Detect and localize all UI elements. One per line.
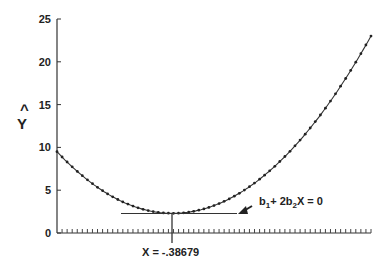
svg-text:0: 0	[45, 227, 51, 239]
curve-markers	[56, 35, 373, 215]
fitted-curve	[57, 36, 371, 213]
svg-text:20: 20	[39, 56, 51, 68]
minimum-x-label: X = -.38679	[142, 246, 199, 258]
svg-text:15: 15	[39, 99, 51, 111]
derivative-annotation: b1+ 2b2X = 0	[259, 195, 323, 210]
svg-text:5: 5	[45, 184, 51, 196]
quadratic-fit-chart: 0510152025 ^ Y X = -.38679 b1+ 2b2X = 0	[0, 0, 389, 258]
y-axis-label: Y	[17, 115, 27, 132]
svg-text:25: 25	[39, 13, 51, 25]
arrow-icon	[238, 206, 252, 214]
y-tick-labels: 0510152025	[39, 13, 51, 239]
svg-text:10: 10	[39, 141, 51, 153]
